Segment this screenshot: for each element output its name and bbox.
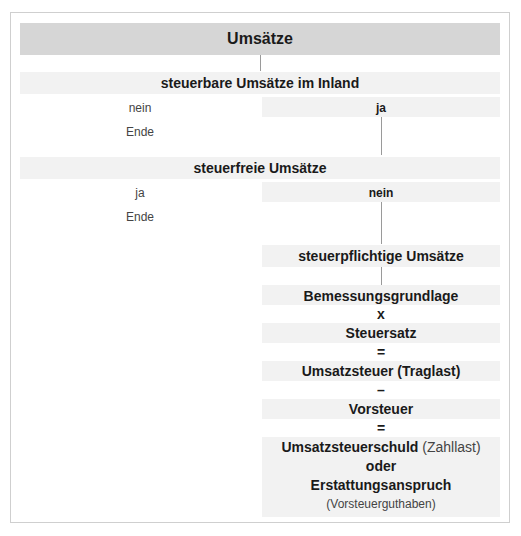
calc-operator-equals-2: = xyxy=(262,420,500,436)
calc-umsatzsteuer: Umsatzsteuer (Traglast) xyxy=(262,363,500,379)
step2-yes-result: Ende xyxy=(100,210,180,224)
calc-vorsteuer: Vorsteuer xyxy=(262,401,500,417)
connector-line xyxy=(381,267,382,287)
calc-operator-multiply: x xyxy=(262,306,500,322)
step3-label: steuerpflichtige Umsätze xyxy=(262,248,500,264)
step2-no-label: nein xyxy=(341,186,421,200)
connector-line xyxy=(381,117,382,155)
step1-no-label: nein xyxy=(100,101,180,115)
diagram-title: Umsätze xyxy=(20,30,500,48)
calc-operator-minus: – xyxy=(262,382,500,398)
calc-steuersatz: Steuersatz xyxy=(262,325,500,341)
step1-yes-label: ja xyxy=(341,101,421,115)
calc-operator-equals: = xyxy=(262,344,500,360)
calc-umsatzsteuerschuld: Umsatzsteuerschuld (Zahllast) xyxy=(262,439,500,455)
calc-erstattungsanspruch: Erstattungsanspruch xyxy=(262,477,500,493)
step2-yes-label: ja xyxy=(100,186,180,200)
connector-line xyxy=(381,202,382,244)
calc-zahllast: (Zahllast) xyxy=(418,439,480,455)
step2-label: steuerfreie Umsätze xyxy=(20,160,500,176)
step1-no-result: Ende xyxy=(100,125,180,139)
connector-line xyxy=(260,55,261,71)
calc-oder: oder xyxy=(262,458,500,474)
calc-vorsteuerguthaben: (Vorsteuerguthaben) xyxy=(262,497,500,511)
calc-bemessungsgrundlage: Bemessungsgrundlage xyxy=(262,288,500,304)
step1-label: steuerbare Umsätze im Inland xyxy=(20,75,500,91)
calc-umsatzsteuerschuld-bold: Umsatzsteuerschuld xyxy=(281,439,418,455)
